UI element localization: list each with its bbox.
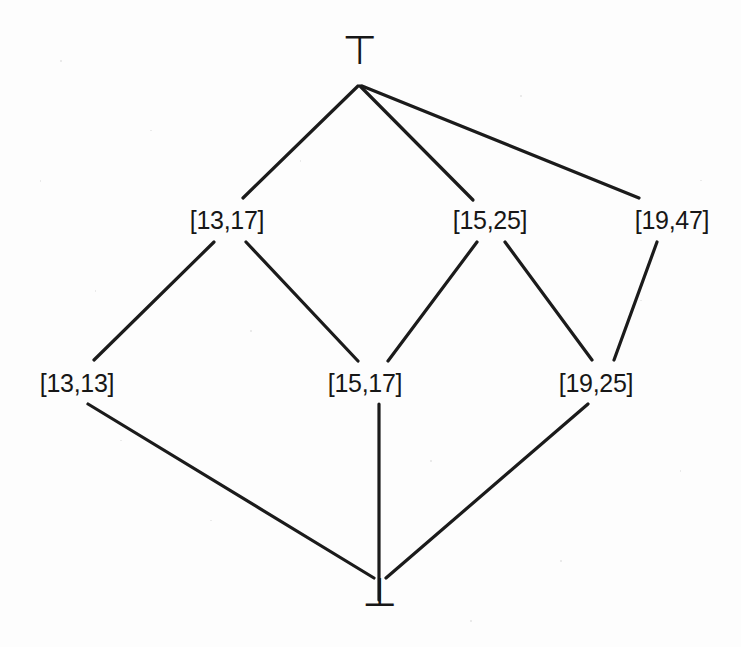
lattice-edge-n1525-to-n1517 xyxy=(388,242,477,361)
lattice-edges-canvas xyxy=(0,0,741,647)
lattice-node-n1517: [15,17] xyxy=(328,369,402,398)
lattice-edge-n1925-to-bot xyxy=(386,404,588,578)
lattice-edge-top-to-n1947 xyxy=(362,86,639,198)
lattice-node-top: ⊤ xyxy=(343,30,378,70)
lattice-node-n1525: [15,25] xyxy=(453,206,527,235)
lattice-edge-n1947-to-n1925 xyxy=(614,242,657,360)
lattice-node-n1317: [13,17] xyxy=(190,206,264,235)
lattice-node-n1947: [19,47] xyxy=(635,206,709,235)
lattice-node-n1313: [13,13] xyxy=(40,369,114,398)
lattice-edge-n1525-to-n1925 xyxy=(505,242,592,360)
lattice-edge-top-to-n1525 xyxy=(360,86,473,200)
lattice-edge-n1317-to-n1517 xyxy=(246,242,358,361)
lattice-node-n1925: [19,25] xyxy=(559,369,633,398)
lattice-node-bot: ⊥ xyxy=(363,572,398,612)
lattice-edge-n1313-to-bot xyxy=(88,404,374,578)
lattice-edge-n1317-to-n1313 xyxy=(94,242,214,360)
lattice-edge-top-to-n1317 xyxy=(243,86,358,198)
lattice-diagram: ⊤[13,17][15,25][19,47][13,13][15,17][19,… xyxy=(0,0,741,647)
edges-group xyxy=(88,86,657,600)
